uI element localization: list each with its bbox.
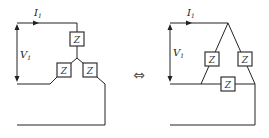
- y-network: I1 V1 Z Z Z: [15, 7, 106, 125]
- impedance-label: Z: [224, 80, 232, 90]
- voltage-label: V1: [20, 49, 31, 61]
- current-label: I1: [33, 7, 42, 19]
- impedance-label: Z: [60, 66, 68, 76]
- impedance-label: Z: [86, 66, 94, 76]
- current-arrow-icon: [186, 21, 192, 26]
- left-terminal-wire: [17, 77, 57, 84]
- voltage-arrow-down-icon: [15, 76, 20, 82]
- return-wire: [170, 84, 255, 125]
- equivalence-icon: ⇔: [133, 67, 145, 83]
- voltage-arrow-down-icon: [168, 76, 173, 82]
- impedance-label: Z: [73, 35, 81, 45]
- current-arrow-icon: [33, 21, 39, 26]
- impedance-label: Z: [208, 55, 216, 65]
- voltage-label: V1: [173, 47, 184, 59]
- voltage-arrow-up-icon: [168, 24, 173, 30]
- impedance-label: Z: [241, 55, 249, 65]
- y-delta-diagram: I1 V1 Z Z Z ⇔ I1 V1: [0, 0, 269, 138]
- voltage-arrow-up-icon: [15, 24, 20, 30]
- delta-network: I1 V1 Z Z Z: [168, 7, 256, 125]
- current-label: I1: [186, 7, 195, 19]
